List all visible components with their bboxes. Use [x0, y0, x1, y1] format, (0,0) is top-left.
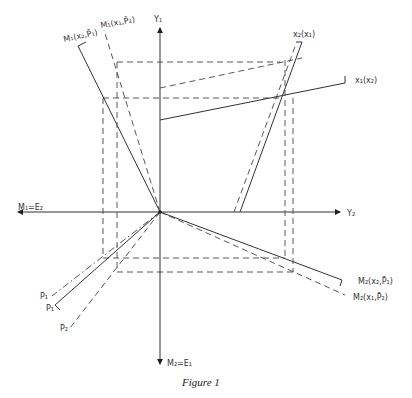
label-p1-a: P₁ [40, 292, 48, 301]
label-y1: Y₁ [153, 15, 162, 24]
figure-caption: Figure 1 [181, 376, 220, 388]
reaction-curves [160, 42, 345, 212]
p-lines [52, 212, 160, 328]
label-x2-of-x1: x₂(x₁) [293, 30, 315, 39]
m2-x2-p1-line [160, 212, 342, 280]
label-m1-x1-p2: M₁(x₁,P̄₂) [100, 14, 136, 30]
label-p2: P₂ [60, 324, 68, 333]
m2-lines [160, 212, 345, 295]
m2-x1-p2-line [160, 212, 345, 295]
label-m1-x2-p1: M₁(x₂,P̄₁) [62, 26, 98, 43]
p2-line [70, 212, 160, 328]
label-y2: Y₂ [346, 209, 355, 218]
m1-lines [78, 30, 160, 212]
m1-x2-p1-line [78, 46, 160, 212]
axes [18, 28, 340, 364]
p1b-line [55, 212, 160, 305]
label-p1-b: P₁ [46, 304, 54, 313]
label-m2-x2-p1: M₂(x₂,P̄₁) [358, 276, 393, 286]
m1-x1-p2-line [104, 30, 160, 212]
dashed-projection-lines [103, 58, 302, 272]
p1a-line [52, 212, 160, 296]
label-m1-e2: M₁=E₂ [18, 203, 43, 212]
label-x1-of-x2: x₁(x₂) [355, 76, 377, 85]
origin-point [158, 210, 162, 214]
label-m2-x1-p2: M₂(x₁,P̄₂) [353, 292, 388, 302]
x2-of-x1-line [240, 42, 302, 212]
x1-of-x2-line [160, 83, 345, 120]
label-m2-e1: M₂=E₁ [167, 359, 192, 368]
diagram-canvas: Y₁ Y₂ M₁(x₂,P̄₁) M₁(x₁,P̄₂) x₂(x₁) x₁(x₂… [0, 0, 412, 398]
